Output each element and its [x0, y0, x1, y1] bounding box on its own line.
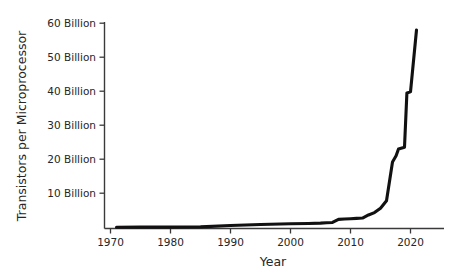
y-axis-tick-labels: 10 Billion 20 Billion 30 Billion 40 Bill… — [47, 17, 96, 199]
y-tick-label: 20 Billion — [47, 153, 96, 165]
x-tick-label: 1990 — [217, 236, 244, 248]
y-tick-label: 10 Billion — [47, 187, 96, 199]
y-axis-ticks — [100, 23, 105, 193]
data-series-line — [117, 30, 417, 227]
line-chart: 10 Billion 20 Billion 30 Billion 40 Bill… — [0, 0, 452, 275]
y-tick-label: 30 Billion — [47, 119, 96, 131]
x-axis-tick-labels: 1970 1980 1990 2000 2010 2020 — [97, 236, 424, 248]
y-axis-title: Transistors per Microprocessor — [14, 30, 29, 222]
y-tick-label: 40 Billion — [47, 85, 96, 97]
x-tick-label: 1970 — [97, 236, 124, 248]
x-tick-label: 1980 — [157, 236, 184, 248]
x-axis-ticks — [111, 229, 411, 234]
x-axis-title: Year — [259, 254, 287, 269]
x-tick-label: 2000 — [277, 236, 304, 248]
x-tick-label: 2010 — [337, 236, 364, 248]
y-tick-label: 60 Billion — [47, 17, 96, 29]
chart-figure: 10 Billion 20 Billion 30 Billion 40 Bill… — [0, 0, 452, 275]
y-tick-label: 50 Billion — [47, 51, 96, 63]
x-tick-label: 2020 — [397, 236, 424, 248]
